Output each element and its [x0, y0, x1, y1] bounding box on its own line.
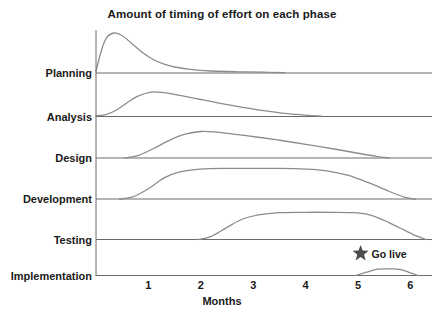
x-tick-1: 1 [136, 279, 160, 291]
go-live-star-icon [353, 245, 369, 260]
category-label-implementation: Implementation [0, 270, 92, 282]
go-live-annotation-label: Go live [372, 248, 407, 260]
x-tick-5: 5 [346, 279, 370, 291]
x-tick-6: 6 [398, 279, 422, 291]
category-label-testing: Testing [0, 234, 92, 246]
chart-container: Amount of timing of effort on each phase… [0, 0, 444, 317]
category-label-design: Design [0, 152, 92, 164]
x-tick-2: 2 [189, 279, 213, 291]
x-tick-3: 3 [241, 279, 265, 291]
category-label-column: PlanningAnalysisDesignDevelopmentTesting… [0, 0, 92, 317]
curve-testing [198, 212, 426, 239]
category-baselines [96, 73, 432, 276]
category-label-analysis: Analysis [0, 111, 92, 123]
star-icon [353, 245, 369, 260]
x-tick-4: 4 [294, 279, 318, 291]
x-axis-title: Months [0, 295, 444, 307]
curve-development [120, 168, 416, 199]
curve-implementation [355, 269, 418, 276]
curve-design [125, 131, 390, 158]
category-label-planning: Planning [0, 67, 92, 79]
category-label-development: Development [0, 193, 92, 205]
curve-planning [96, 33, 285, 73]
curve-analysis [96, 92, 321, 116]
